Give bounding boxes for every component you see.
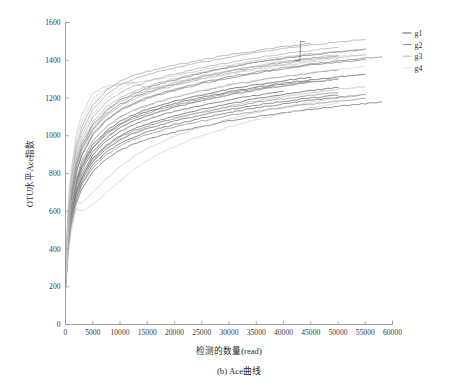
data-curve [66,74,366,280]
x-tick-label: 55000 [356,328,375,337]
chart-canvas: 02004006008001000120014001600 0500010000… [0,0,453,392]
legend-label-g2[interactable]: g2 [415,41,423,50]
figure-caption: (b) Ace曲线 [217,365,261,376]
data-curve [66,87,339,284]
plot-curves [66,39,382,290]
x-axis-ticks [66,321,393,324]
data-curve [66,93,339,285]
y-tick-label: 1400 [45,56,60,65]
y-tick-label: 800 [49,169,61,178]
y-tick-label: 400 [49,245,61,254]
data-curve [66,43,311,270]
legend-label-g3[interactable]: g3 [415,52,423,61]
data-curve [66,54,366,272]
data-curve [66,49,366,275]
y-tick-label: 1200 [45,94,60,103]
data-curve [66,77,311,279]
x-tick-label: 60000 [383,328,402,337]
x-tick-label: 25000 [192,328,211,337]
data-curve [66,70,339,280]
y-axis-title: OTU水平Ace指数 [24,140,35,208]
x-tick-label: 20000 [165,328,184,337]
x-tick-label: 10000 [111,328,130,337]
x-tick-label: 0 [64,328,68,337]
data-curve [66,49,366,275]
x-tick-label: 15000 [138,328,157,337]
y-tick-label: 0 [57,320,61,329]
y-tick-label: 1600 [45,18,60,27]
legend-label-g1[interactable]: g1 [415,29,423,38]
legend[interactable]: g1g2g3g4 [403,29,423,73]
data-curve [66,98,366,287]
y-tick-label: 200 [49,282,61,291]
x-tick-label: 45000 [301,328,320,337]
y-tick-label: 600 [49,207,61,216]
x-tick-label: 30000 [220,328,239,337]
data-curve [66,87,366,286]
x-axis-title: 检测的数量(read) [196,345,262,356]
x-tick-label: 40000 [274,328,293,337]
data-curve [66,66,366,280]
legend-label-g4[interactable]: g4 [415,64,423,73]
x-tick-label: 5000 [85,328,100,337]
axes [66,23,393,325]
y-tick-labels: 02004006008001000120014001600 [45,18,60,329]
y-tick-label: 1000 [45,131,60,140]
figure-ace-rarefaction-curve: 02004006008001000120014001600 0500010000… [0,0,453,392]
data-curve [66,55,339,276]
data-curve [66,95,339,286]
x-tick-label: 35000 [247,328,266,337]
x-tick-labels: 0500010000150002000025000300003500040000… [64,328,403,337]
x-tick-label: 50000 [329,328,348,337]
